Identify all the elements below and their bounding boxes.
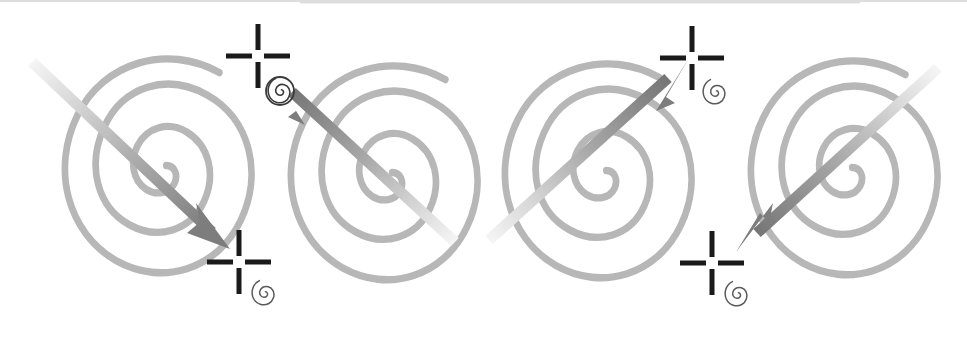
crosshair-1-arm-right xyxy=(245,260,271,265)
crosshair-4-arm-top xyxy=(710,231,715,257)
crosshair-2-arm-left xyxy=(226,54,252,59)
crosshair-4-arm-bottom xyxy=(710,269,715,295)
top-edge-scanline xyxy=(0,0,967,2)
spiral-arrow-figure xyxy=(0,0,967,340)
crosshair-1-arm-top xyxy=(237,230,242,256)
crosshair-4-arm-left xyxy=(680,261,706,266)
figure-canvas: Four spiral targets with directional arr… xyxy=(0,0,967,340)
crosshair-1-arm-left xyxy=(207,260,233,265)
crosshair-3-arm-bottom xyxy=(690,64,695,90)
crosshair-2-arm-top xyxy=(256,24,261,50)
crosshair-3-arm-left xyxy=(660,56,686,61)
crosshair-2-arm-right xyxy=(264,54,290,59)
crosshair-3-arm-top xyxy=(690,26,695,52)
crosshair-4-arm-right xyxy=(718,261,744,266)
crosshair-3-arm-right xyxy=(698,56,724,61)
crosshair-2-arm-bottom xyxy=(256,62,261,88)
top-edge-scanline-secondary xyxy=(300,2,860,3)
crosshair-1-arm-bottom xyxy=(237,268,242,294)
